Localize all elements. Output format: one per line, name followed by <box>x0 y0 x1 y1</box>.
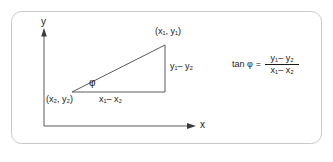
x-axis-label: x <box>200 120 205 130</box>
fraction-numerator: y₁– y₂ <box>269 54 296 64</box>
point-label-upper-right: (x₁, y₁) <box>155 27 181 36</box>
diagram-canvas <box>0 0 333 162</box>
formula-left-side: tan φ <box>232 60 253 69</box>
height-leg-label: y₁– y₂ <box>170 62 193 71</box>
base-leg-label: x₁– x₂ <box>99 95 122 104</box>
y-axis-label: y <box>41 17 46 27</box>
angle-phi-symbol: φ <box>89 78 95 88</box>
fraction-denominator: x₁– x₂ <box>269 65 296 75</box>
formula-equals-sign: = <box>256 60 261 69</box>
figure-container: y x (x₁, y₁) (x₂, y₂) x₁– x₂ y₁– y₂ φ ta… <box>0 0 333 162</box>
point-label-lower-left: (x₂, y₂) <box>46 95 73 104</box>
formula-fraction: y₁– y₂ x₁– x₂ <box>265 54 299 75</box>
tangent-formula: tan φ = y₁– y₂ x₁– x₂ <box>232 54 299 75</box>
